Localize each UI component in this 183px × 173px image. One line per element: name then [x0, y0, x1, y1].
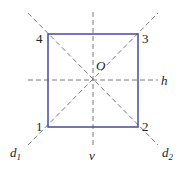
axis-d2-label: d2 — [162, 145, 174, 162]
vertex-4-label: 4 — [36, 31, 43, 46]
center-label: O — [96, 58, 106, 73]
axis-d1-label: d1 — [10, 145, 21, 162]
vertex-3-label: 3 — [142, 31, 149, 46]
axis-v-label: v — [89, 148, 95, 163]
vertex-2-label: 2 — [142, 119, 149, 134]
axis-h-label: h — [161, 73, 168, 88]
square-symmetry-diagram: 4 3 1 2 O h v d1 d2 — [0, 0, 183, 173]
vertex-1-label: 1 — [36, 119, 43, 134]
